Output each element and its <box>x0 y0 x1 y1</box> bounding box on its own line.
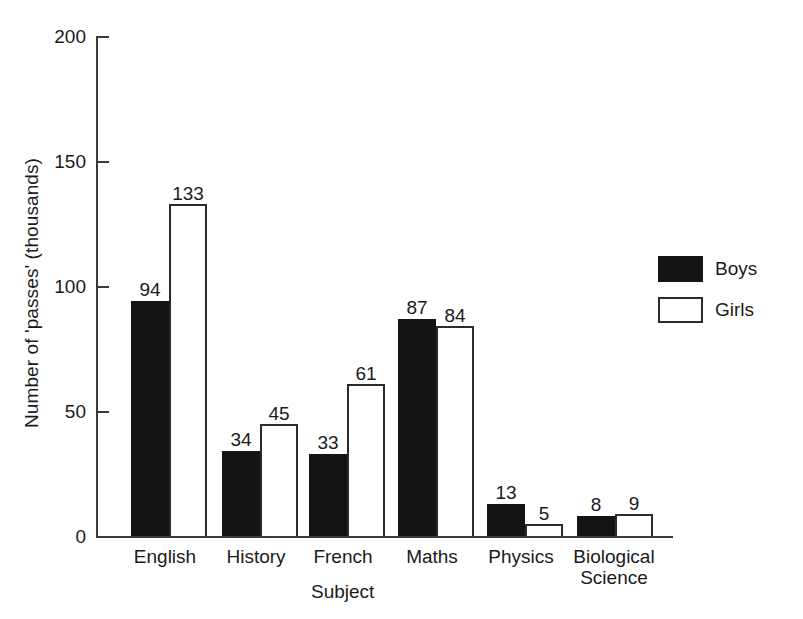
bar-girls-physics: 5 <box>525 524 563 537</box>
legend-label-girls: Girls <box>715 299 754 321</box>
legend-swatch-boys-icon <box>658 256 703 282</box>
bar-value-label: 133 <box>172 184 204 203</box>
bar-girls-history: 45 <box>260 424 298 537</box>
bar-group: 94133 <box>131 36 207 536</box>
bar-group: 3445 <box>222 36 298 536</box>
y-axis-tick-label-150: 150 <box>26 152 86 171</box>
bar-value-label: 87 <box>406 298 427 317</box>
bar-girls-english: 133 <box>169 204 207 537</box>
y-axis-tick-label-200: 200 <box>26 27 86 46</box>
bar-value-label: 9 <box>629 494 640 513</box>
y-axis-tick-label-50: 50 <box>26 402 86 421</box>
bar-value-label: 84 <box>444 306 465 325</box>
bar-value-label: 33 <box>317 433 338 452</box>
bar-value-label: 45 <box>268 404 289 423</box>
bar-boys-english: 94 <box>131 301 169 536</box>
legend: Boys Girls <box>658 248 757 330</box>
bar-group: 89 <box>577 36 653 536</box>
x-axis-label-biological-science: Biological Science <box>549 546 679 589</box>
bar-chart: Number of 'passes' (thousands) 200 150 1… <box>0 0 803 619</box>
bar-girls-biological-science: 9 <box>615 514 653 537</box>
y-axis-tick-label-100: 100 <box>26 277 86 296</box>
bar-value-label: 94 <box>139 280 160 299</box>
bar-group: 3361 <box>309 36 385 536</box>
y-axis-tick-label-0: 0 <box>26 527 86 546</box>
bar-value-label: 13 <box>495 483 516 502</box>
legend-item-girls: Girls <box>658 289 757 330</box>
bar-value-label: 5 <box>539 504 550 523</box>
y-axis-tick-0 <box>98 536 109 538</box>
plot-area: 9413334453361878413589 <box>98 36 673 536</box>
bar-boys-maths: 87 <box>398 319 436 537</box>
bar-girls-french: 61 <box>347 384 385 537</box>
legend-label-boys: Boys <box>715 258 757 280</box>
bar-boys-biological-science: 8 <box>577 516 615 536</box>
bar-boys-physics: 13 <box>487 504 525 537</box>
bar-boys-history: 34 <box>222 451 260 536</box>
bar-girls-maths: 84 <box>436 326 474 536</box>
bar-value-label: 8 <box>591 495 602 514</box>
x-axis-line <box>96 536 673 538</box>
legend-swatch-girls-icon <box>658 297 703 323</box>
bar-boys-french: 33 <box>309 454 347 537</box>
x-axis-title: Subject <box>311 581 374 603</box>
bar-group: 8784 <box>398 36 474 536</box>
legend-item-boys: Boys <box>658 248 757 289</box>
bar-value-label: 34 <box>230 430 251 449</box>
bar-value-label: 61 <box>355 364 376 383</box>
bar-group: 135 <box>487 36 563 536</box>
